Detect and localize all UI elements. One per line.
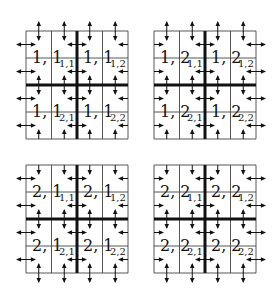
arrow-head-icon — [195, 123, 200, 127]
arrow-head-icon — [88, 278, 92, 283]
arrow-horizontal-icon — [154, 69, 164, 73]
arrow-head-icon — [62, 209, 66, 214]
arrow-head-icon — [210, 69, 215, 73]
arrow-head-icon — [37, 209, 41, 214]
arrow-vertical-icon — [216, 165, 220, 175]
arrow-head-icon — [113, 90, 117, 95]
arrow-head-icon — [216, 21, 220, 26]
arrow-horizontal-icon — [154, 96, 164, 100]
arrow-head-icon — [31, 230, 36, 234]
arrow-head-icon — [67, 176, 72, 180]
arrow-head-icon — [31, 176, 36, 180]
arrow-vertical-icon — [62, 129, 66, 139]
arrow-head-icon — [241, 75, 245, 80]
arrow-head-icon — [82, 203, 87, 207]
arrow-head-icon — [195, 230, 200, 234]
arrow-head-icon — [82, 176, 87, 180]
arrow-head-icon — [216, 75, 220, 80]
arrow-horizontal-icon — [154, 176, 164, 180]
block-label: 1, 2 — [160, 102, 191, 121]
arrow-head-icon — [190, 129, 194, 134]
arrow-head-icon — [165, 170, 169, 175]
arrow-vertical-icon — [37, 165, 41, 175]
arrow-head-icon — [190, 36, 194, 41]
arrow-vertical-icon — [113, 129, 117, 139]
arrow-head-icon — [16, 230, 21, 234]
arrow-head-icon — [82, 96, 87, 100]
arrow-vertical-icon — [88, 165, 92, 175]
arrow-head-icon — [113, 21, 117, 26]
arrow-head-icon — [113, 170, 117, 175]
arrow-head-icon — [165, 278, 169, 283]
arrow-head-icon — [88, 90, 92, 95]
arrow-vertical-icon — [241, 129, 245, 139]
arrow-head-icon — [210, 42, 215, 46]
arrow-head-icon — [165, 129, 169, 134]
arrow-head-icon — [246, 257, 251, 261]
panel-1-2: 1, 21,11, 21,21, 22,11, 22,2 — [154, 21, 266, 139]
arrow-head-icon — [261, 96, 266, 100]
block-label: 1, 1 — [83, 48, 114, 67]
arrow-head-icon — [118, 176, 123, 180]
block-label: 1, 2 — [160, 48, 191, 67]
arrow-head-icon — [216, 36, 220, 41]
arrow-head-icon — [82, 257, 87, 261]
arrow-head-icon — [88, 209, 92, 214]
block-subscript: 1,1 — [187, 192, 203, 203]
arrow-head-icon — [190, 209, 194, 214]
arrow-head-icon — [16, 96, 21, 100]
block-label: 2, 1 — [32, 236, 63, 255]
arrow-vertical-icon — [88, 129, 92, 139]
arrow-head-icon — [246, 42, 251, 46]
block-subscript: 2,1 — [187, 112, 203, 123]
arrow-head-icon — [88, 36, 92, 41]
arrow-head-icon — [165, 75, 169, 80]
arrow-head-icon — [113, 209, 117, 214]
arrow-head-icon — [113, 224, 117, 229]
arrow-head-icon — [216, 170, 220, 175]
arrow-vertical-icon — [216, 129, 220, 139]
arrow-head-icon — [246, 123, 251, 127]
arrow-head-icon — [261, 42, 266, 46]
block-subscript: 2,1 — [59, 246, 75, 257]
arrow-head-icon — [16, 42, 21, 46]
block-label: 2, 1 — [83, 182, 114, 201]
arrow-head-icon — [62, 263, 66, 268]
arrow-head-icon — [88, 170, 92, 175]
arrow-head-icon — [159, 257, 164, 261]
arrow-head-icon — [37, 21, 41, 26]
block-label: 1, 2 — [211, 102, 242, 121]
arrow-head-icon — [261, 257, 266, 261]
arrow-head-icon — [195, 69, 200, 73]
block-label: 2, 1 — [32, 182, 63, 201]
arrow-head-icon — [190, 224, 194, 229]
arrow-head-icon — [62, 170, 66, 175]
block-subscript: 1,2 — [238, 192, 254, 203]
block-subscript: 2,1 — [59, 112, 75, 123]
arrow-head-icon — [67, 230, 72, 234]
arrow-horizontal-icon — [118, 123, 128, 127]
arrow-head-icon — [246, 69, 251, 73]
arrow-head-icon — [37, 90, 41, 95]
arrow-head-icon — [88, 263, 92, 268]
arrow-head-icon — [241, 170, 245, 175]
arrow-head-icon — [16, 176, 21, 180]
arrow-head-icon — [82, 230, 87, 234]
block-label: 2, 1 — [83, 236, 114, 255]
arrow-horizontal-icon — [118, 69, 128, 73]
arrow-head-icon — [261, 176, 266, 180]
block-label: 2, 2 — [211, 182, 242, 201]
arrow-vertical-icon — [37, 129, 41, 139]
block-subscript: 2,2 — [110, 246, 126, 257]
arrow-horizontal-icon — [118, 203, 128, 207]
arrow-head-icon — [31, 123, 36, 127]
arrow-head-icon — [246, 176, 251, 180]
block-subscript: 1,2 — [110, 192, 126, 203]
arrow-head-icon — [195, 42, 200, 46]
arrow-head-icon — [118, 230, 123, 234]
arrow-horizontal-icon — [118, 257, 128, 261]
arrow-head-icon — [113, 36, 117, 41]
arrow-head-icon — [118, 257, 123, 261]
arrow-head-icon — [62, 129, 66, 134]
arrow-head-icon — [165, 263, 169, 268]
